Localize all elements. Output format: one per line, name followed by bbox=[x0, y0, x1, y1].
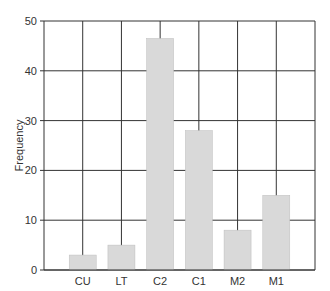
y-axis-label: Frequency bbox=[13, 119, 25, 171]
x-tick-label: CU bbox=[75, 275, 91, 287]
y-tick-label: 10 bbox=[25, 214, 37, 226]
y-tick-label: 40 bbox=[25, 65, 37, 77]
x-tick-label: LT bbox=[115, 275, 127, 287]
x-tick-label: M1 bbox=[269, 275, 284, 287]
x-tick-label: C2 bbox=[153, 275, 167, 287]
y-tick-label: 30 bbox=[25, 115, 37, 127]
bar-cu bbox=[69, 255, 96, 270]
bar-m2 bbox=[224, 230, 251, 270]
bar-lt bbox=[108, 245, 135, 270]
y-tick-label: 20 bbox=[25, 164, 37, 176]
bar-c1 bbox=[185, 131, 212, 270]
bar-c2 bbox=[147, 38, 174, 270]
bar-chart: 01020304050CULTC2C1M2M1Frequency bbox=[0, 0, 330, 291]
y-tick-label: 0 bbox=[31, 264, 37, 276]
x-tick-label: C1 bbox=[192, 275, 206, 287]
y-tick-label: 50 bbox=[25, 15, 37, 27]
x-tick-label: M2 bbox=[230, 275, 245, 287]
bar-m1 bbox=[263, 195, 290, 270]
